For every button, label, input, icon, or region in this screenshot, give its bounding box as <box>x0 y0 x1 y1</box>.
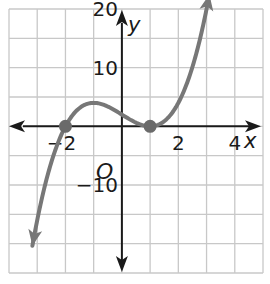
x-tick-label: 2 <box>172 131 185 155</box>
y-axis-label: y <box>127 13 141 37</box>
axis-labels: y x O −224 2010−10 <box>47 0 257 197</box>
y-tick-label: 20 <box>92 0 117 21</box>
x-axis-label: x <box>243 129 257 153</box>
x-tick-labels: −224 <box>47 131 241 155</box>
function-curve <box>28 0 213 246</box>
zero-point-marker <box>59 120 72 133</box>
y-tick-label: 10 <box>92 56 117 80</box>
cubic-function-graph: y x O −224 2010−10 <box>0 0 270 284</box>
y-tick-label: −10 <box>76 173 118 197</box>
x-tick-label: 4 <box>228 131 241 155</box>
zero-point-marker <box>144 120 157 133</box>
